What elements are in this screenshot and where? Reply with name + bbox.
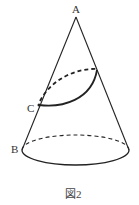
label-b: B xyxy=(11,143,18,155)
label-c: C xyxy=(27,102,34,114)
cone-diagram: A B C 図2 xyxy=(0,0,139,205)
base-front-solid xyxy=(22,150,129,165)
cone-right-edge xyxy=(76,17,129,150)
figure-caption: 図2 xyxy=(65,188,82,200)
label-a: A xyxy=(72,3,80,15)
cone-left-edge xyxy=(22,17,76,150)
base-back-dashed xyxy=(22,135,129,150)
point-c xyxy=(38,104,41,107)
